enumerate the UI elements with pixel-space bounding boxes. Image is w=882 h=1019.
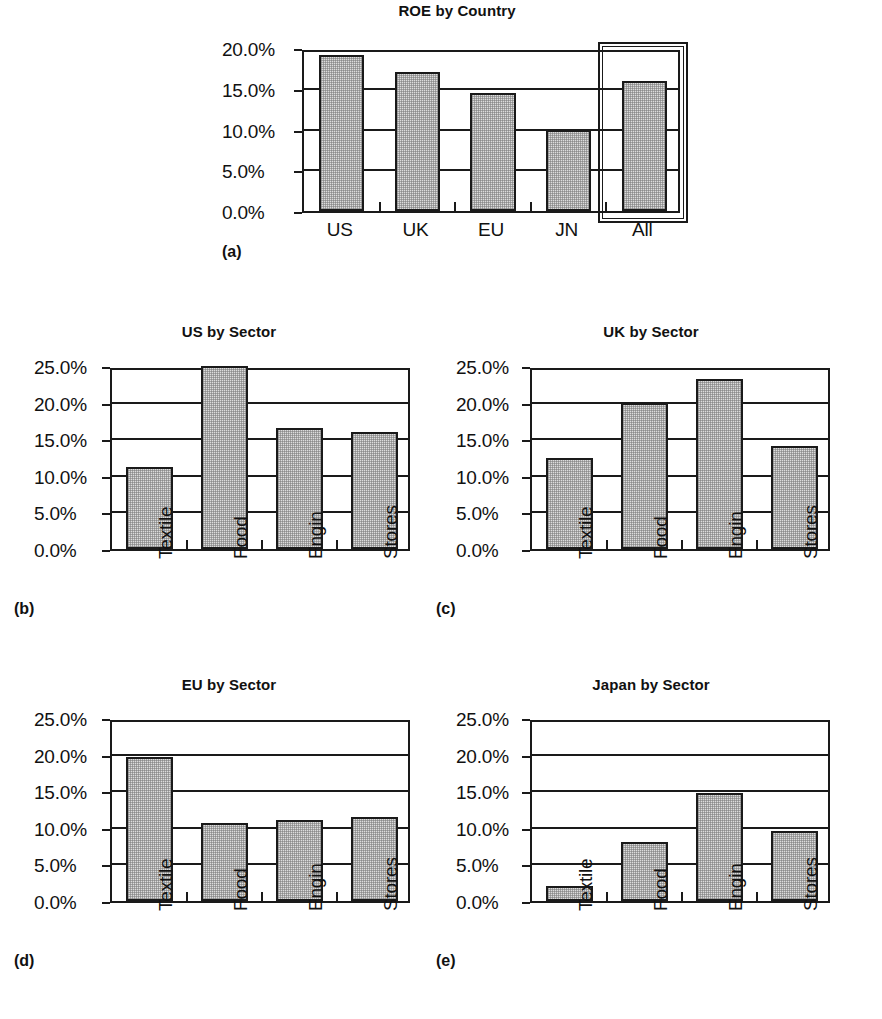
xtick-mark-e-3 [756,892,758,901]
ytick-label-b-5: 25.0% [34,357,104,379]
panel-tag-d: (d) [14,952,34,970]
ytick-label-c-2: 10.0% [456,467,526,489]
panel-tag-e: (e) [436,952,456,970]
ytick-label-d-3: 15.0% [34,782,104,804]
ytick-mark-a-0 [294,212,302,214]
xtick-mark-b-2 [261,540,263,549]
ytick-label-a-3: 15.0% [222,80,294,102]
ytick-label-e-2: 10.0% [456,819,526,841]
ytick-mark-d-0 [102,902,110,904]
xtick-mark-a-2 [454,202,456,211]
ytick-label-c-4: 20.0% [456,394,526,416]
chart-title-c: UK by Sector [456,323,846,340]
ytick-mark-c-4 [522,404,530,406]
xtick-mark-a-1 [379,202,381,211]
ytick-mark-e-4 [522,756,530,758]
ytick-label-a-2: 10.0% [222,121,294,143]
ytick-label-b-3: 15.0% [34,430,104,452]
ytick-label-b-2: 10.0% [34,467,104,489]
xtick-label-a-3: JN [555,219,578,241]
ytick-label-e-0: 0.0% [456,892,526,914]
ytick-label-e-1: 5.0% [456,855,526,877]
ytick-mark-b-4 [102,404,110,406]
bar-a-3 [546,130,591,212]
chart-title-e: Japan by Sector [456,676,846,693]
xtick-label-d-3: Stores [380,857,402,911]
ytick-mark-d-4 [102,756,110,758]
xtick-label-e-2: Engin [725,863,747,911]
ytick-label-c-5: 25.0% [456,357,526,379]
xtick-mark-c-3 [756,540,758,549]
xtick-mark-d-3 [336,892,338,901]
gridline-d-20 [112,754,408,756]
xtick-mark-a-4 [605,202,607,211]
chart-title-b: US by Sector [34,323,424,340]
xtick-label-b-3: Stores [380,505,402,559]
ytick-label-c-1: 5.0% [456,503,526,525]
xtick-label-d-1: Food [230,868,252,911]
gridline-e-10 [532,827,828,829]
ytick-mark-e-3 [522,792,530,794]
panel-tag-b: (b) [14,600,34,618]
ytick-label-e-5: 25.0% [456,709,526,731]
ytick-label-d-2: 10.0% [34,819,104,841]
ytick-mark-a-1 [294,171,302,173]
ytick-label-c-0: 0.0% [456,540,526,562]
ytick-label-d-4: 20.0% [34,746,104,768]
gridline-b-20 [112,402,408,404]
xtick-label-b-1: Food [230,516,252,559]
xtick-label-a-0: US [327,219,353,241]
ytick-mark-d-3 [102,792,110,794]
panel-tag-a: (a) [222,243,242,261]
xtick-label-b-0: Textile [155,507,177,559]
xtick-label-d-0: Textile [155,859,177,911]
panel-tag-c: (c) [436,600,456,618]
ytick-mark-c-5 [522,367,530,369]
ytick-mark-c-1 [522,513,530,515]
ytick-label-e-3: 15.0% [456,782,526,804]
gridline-c-20 [532,402,828,404]
ytick-mark-b-5 [102,367,110,369]
xtick-mark-d-1 [186,892,188,901]
ytick-label-d-0: 0.0% [34,892,104,914]
ytick-mark-b-2 [102,477,110,479]
xtick-mark-b-1 [186,540,188,549]
xtick-mark-a-3 [530,202,532,211]
gridline-e-20 [532,754,828,756]
ytick-mark-d-2 [102,829,110,831]
ytick-mark-c-2 [522,477,530,479]
bar-a-2 [470,93,515,211]
xtick-mark-d-2 [261,892,263,901]
ytick-label-a-1: 5.0% [222,161,294,183]
ytick-mark-e-2 [522,829,530,831]
xtick-label-a-4: All [632,219,653,241]
ytick-mark-c-0 [522,550,530,552]
xtick-label-d-2: Engin [305,863,327,911]
xtick-label-e-0: Textile [575,859,597,911]
bar-a-1 [395,72,440,211]
ytick-mark-b-3 [102,440,110,442]
ytick-label-b-1: 5.0% [34,503,104,525]
ytick-label-d-1: 5.0% [34,855,104,877]
bar-a-4 [622,81,667,211]
xtick-label-c-0: Textile [575,507,597,559]
ytick-mark-b-0 [102,550,110,552]
xtick-label-a-2: EU [478,219,504,241]
xtick-label-e-3: Stores [800,857,822,911]
ytick-mark-a-2 [294,131,302,133]
chart-title-d: EU by Sector [34,676,424,693]
ytick-label-a-0: 0.0% [222,202,294,224]
ytick-label-c-3: 15.0% [456,430,526,452]
xtick-mark-b-3 [336,540,338,549]
ytick-label-d-5: 25.0% [34,709,104,731]
ytick-mark-d-5 [102,719,110,721]
ytick-mark-b-1 [102,513,110,515]
chart-title-a: ROE by Country [222,2,692,19]
ytick-label-b-0: 0.0% [34,540,104,562]
ytick-label-b-4: 20.0% [34,394,104,416]
ytick-mark-a-3 [294,90,302,92]
gridline-c-15 [532,438,828,440]
ytick-mark-c-3 [522,440,530,442]
xtick-label-e-1: Food [650,868,672,911]
ytick-mark-a-4 [294,49,302,51]
